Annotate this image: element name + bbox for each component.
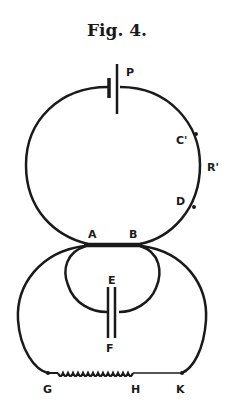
label-b: B: [129, 228, 137, 241]
label-f: F: [106, 342, 114, 355]
label-r: R': [207, 161, 219, 174]
point-k: [180, 371, 184, 375]
figure-title: Fig. 4.: [87, 20, 147, 40]
point-d: [192, 205, 196, 209]
label-c: C': [176, 134, 187, 147]
outer-loop-left: [18, 246, 84, 373]
label-d: D: [176, 195, 185, 208]
upper-loop-left: [26, 87, 108, 244]
label-h: H: [131, 383, 140, 396]
upper-loop-right: [120, 87, 200, 244]
inner-loop-left: [65, 246, 107, 312]
point-g: [46, 371, 50, 375]
outer-loop-right: [142, 246, 206, 373]
label-a: A: [88, 228, 97, 241]
inner-loop-right: [119, 246, 159, 312]
point-c: [194, 132, 198, 136]
capacitor-ef-icon: [108, 287, 115, 338]
label-e: E: [108, 274, 116, 287]
battery-p-icon: [109, 64, 117, 114]
label-p: P: [126, 66, 134, 79]
circuit-diagram: Fig. 4. P C' R' D A B E F G H K: [0, 0, 235, 414]
coil-gh-icon: [58, 373, 133, 376]
label-k: K: [176, 383, 185, 396]
label-g: G: [43, 383, 52, 396]
